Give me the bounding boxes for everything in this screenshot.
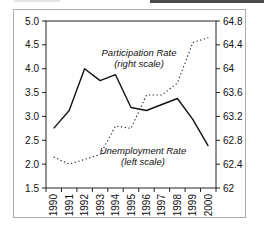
- svg-text:3.0: 3.0: [25, 111, 39, 122]
- annotation-unemployment-line1: Unemployment Rate: [100, 145, 187, 156]
- svg-text:1996: 1996: [141, 194, 152, 217]
- chart-svg: 5.04.54.03.53.02.52.01.564.864.46463.663…: [14, 10, 245, 217]
- svg-text:1990: 1990: [48, 194, 59, 217]
- svg-text:1991: 1991: [64, 194, 75, 217]
- chart-frame: 5.04.54.03.53.02.52.01.564.864.46463.663…: [13, 9, 246, 218]
- annotation-unemployment-line2: (left scale): [100, 156, 187, 167]
- annotation-participation-line2: (right scale): [102, 58, 177, 69]
- svg-text:5.0: 5.0: [25, 16, 39, 27]
- window-edge-fragment-right: [150, 0, 264, 3]
- svg-text:1998: 1998: [172, 194, 183, 217]
- svg-text:64.4: 64.4: [223, 39, 243, 50]
- svg-text:64: 64: [223, 63, 235, 74]
- svg-text:2000: 2000: [203, 194, 214, 217]
- svg-text:1993: 1993: [95, 194, 106, 217]
- svg-text:62.4: 62.4: [223, 159, 243, 170]
- svg-text:63.6: 63.6: [223, 87, 243, 98]
- svg-text:64.8: 64.8: [223, 16, 243, 27]
- x-axis-ticks: [46, 188, 216, 192]
- right-axis-labels: 64.864.46463.663.262.862.462: [216, 16, 243, 194]
- screenshot-root: 5.04.54.03.53.02.52.01.564.864.46463.663…: [0, 0, 264, 230]
- svg-text:63.2: 63.2: [223, 111, 243, 122]
- svg-text:62: 62: [223, 183, 235, 194]
- left-axis-labels: 5.04.54.03.53.02.52.01.5: [25, 16, 46, 194]
- svg-text:1995: 1995: [126, 194, 137, 217]
- svg-text:1992: 1992: [79, 194, 90, 217]
- svg-text:1.5: 1.5: [25, 183, 39, 194]
- svg-text:2.5: 2.5: [25, 135, 39, 146]
- svg-text:1994: 1994: [110, 194, 121, 217]
- svg-text:1999: 1999: [187, 194, 198, 217]
- x-axis-labels: 1990199119921993199419951996199719981999…: [48, 194, 214, 217]
- annotation-participation-line1: Participation Rate: [102, 47, 177, 58]
- svg-text:1997: 1997: [156, 194, 167, 217]
- annotation-unemployment-rate: Unemployment Rate (left scale): [100, 145, 187, 167]
- svg-text:3.5: 3.5: [25, 87, 39, 98]
- participation-rate-line: [54, 69, 209, 147]
- svg-text:4.0: 4.0: [25, 63, 39, 74]
- svg-text:62.8: 62.8: [223, 135, 243, 146]
- svg-text:2.0: 2.0: [25, 159, 39, 170]
- window-edge-fragment-left: [14, 0, 60, 2]
- svg-text:4.5: 4.5: [25, 39, 39, 50]
- annotation-participation-rate: Participation Rate (right scale): [102, 47, 177, 69]
